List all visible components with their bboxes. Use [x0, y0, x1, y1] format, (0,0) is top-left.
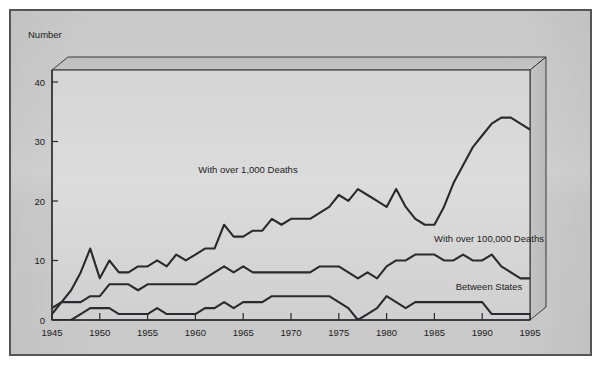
- y-tick-label-10: 10: [34, 255, 45, 266]
- plot-box-right-face: [530, 57, 546, 320]
- x-tick-label-1985: 1985: [424, 327, 445, 338]
- x-tick-label-1960: 1960: [185, 327, 206, 338]
- x-tick-label-1965: 1965: [233, 327, 254, 338]
- x-tick-label-1975: 1975: [328, 327, 349, 338]
- x-tick-label-1995: 1995: [519, 327, 540, 338]
- x-tick-label-1955: 1955: [137, 327, 158, 338]
- x-tick-label-1980: 1980: [376, 327, 397, 338]
- plot-box-top-face: [52, 57, 546, 70]
- line-chart-svg: 0 10 20 30 40 1945 1950 1955 1960 1965 1…: [0, 0, 601, 365]
- x-tick-label-1970: 1970: [280, 327, 301, 338]
- y-tick-label-0: 0: [40, 315, 45, 326]
- x-tick-label-1990: 1990: [472, 327, 493, 338]
- series-annotation-with-over-1000-deaths: With over 1,000 Deaths: [198, 164, 298, 175]
- y-tick-label-30: 30: [34, 136, 45, 147]
- y-tick-label-20: 20: [34, 196, 45, 207]
- y-axis-title: Number: [28, 29, 62, 40]
- series-annotation-between-states: Between States: [456, 281, 523, 292]
- x-tick-label-1945: 1945: [41, 327, 62, 338]
- y-tick-label-40: 40: [34, 77, 45, 88]
- series-annotation-with-over-100000-deaths: With over 100,000 Deaths: [434, 233, 544, 244]
- chart-figure: 0 10 20 30 40 1945 1950 1955 1960 1965 1…: [0, 0, 601, 365]
- x-tick-label-1950: 1950: [89, 327, 110, 338]
